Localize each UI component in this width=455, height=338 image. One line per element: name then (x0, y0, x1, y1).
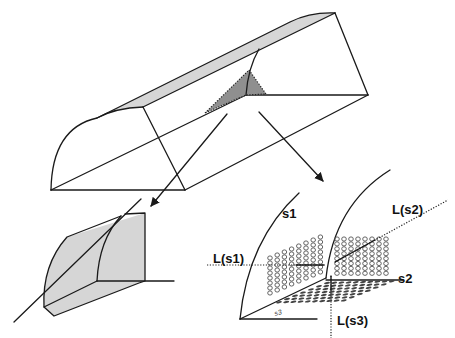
quadrature-point (304, 256, 309, 260)
quadrature-point (304, 266, 309, 270)
quadrature-point (359, 283, 365, 286)
quadrature-point (289, 247, 294, 251)
quadrature-point (381, 283, 387, 286)
quadrature-point (311, 253, 316, 257)
quadrature-point (384, 261, 389, 265)
quadrature-point (300, 291, 306, 294)
highlighted-element (205, 70, 266, 113)
quadrature-point (318, 245, 323, 249)
quadrature-point (289, 257, 294, 261)
quadrature-point (305, 297, 311, 300)
quadrature-point (304, 276, 309, 280)
quadrature-point (349, 247, 354, 251)
quadrature-point (365, 286, 371, 289)
quadrature-point (349, 271, 354, 275)
quadrature-point (268, 281, 273, 285)
quadrature-point (349, 261, 354, 265)
quadrature-point (342, 242, 347, 246)
quadrature-point (298, 297, 304, 300)
quadrature-point (342, 252, 347, 256)
quadrature-point (313, 297, 319, 300)
quadrature-point (331, 281, 337, 284)
quadrature-point (349, 237, 354, 241)
top-curved-surface (97, 13, 335, 118)
quadrature-point (356, 237, 361, 241)
quadrature-point (342, 271, 347, 275)
quadrature-point (384, 266, 389, 270)
quadrature-point (282, 260, 287, 264)
quadrature-point (363, 261, 368, 265)
quadrature-point (377, 266, 382, 270)
quadrature-point (268, 291, 273, 295)
quadrature-point (291, 297, 297, 300)
quadrature-point (297, 274, 302, 278)
quadrature-point (312, 300, 318, 303)
quadrature-point (305, 300, 311, 303)
quadrature-point (351, 287, 357, 290)
quadrature-point (289, 252, 294, 256)
quadrature-point (304, 241, 309, 245)
main-prism (51, 13, 368, 190)
quadrature-point (304, 271, 309, 275)
quadrature-point (366, 283, 372, 286)
quadrature-point (356, 271, 361, 275)
quadrature-point (313, 294, 319, 297)
quadrature-point (318, 260, 323, 264)
quadrature-point (344, 287, 350, 290)
quadrature-point (308, 288, 314, 291)
quadrature-point (275, 273, 280, 277)
L-s2-solid-segment (335, 240, 375, 262)
front-face-arc (51, 107, 143, 190)
quadrature-point (341, 296, 347, 299)
quadrature-point (323, 284, 329, 287)
quadrature-point (282, 250, 287, 254)
quadrature-point (299, 294, 305, 297)
quadrature-point (377, 261, 382, 265)
quadrature-point (316, 285, 322, 288)
quadrature-point (384, 257, 389, 261)
quadrature-point (342, 237, 347, 241)
quadrature-point (275, 283, 280, 287)
quadrature-point (384, 252, 389, 256)
quadrature-point (377, 271, 382, 275)
quadrature-point (335, 266, 340, 270)
quadrature-point (338, 281, 344, 284)
quadrature-point (268, 256, 273, 260)
quadrature-point (297, 244, 302, 248)
quadrature-point (297, 269, 302, 273)
quadrature-point (342, 293, 348, 296)
quadrature-point (304, 246, 309, 250)
quadrature-point (335, 252, 340, 256)
quadrature-point (321, 293, 327, 296)
quadrature-point (363, 247, 368, 251)
quadrature-point (356, 257, 361, 261)
quadrature-point (358, 286, 364, 289)
quadrature-point (363, 237, 368, 241)
quadrature-point (292, 294, 298, 297)
quadrature-point (365, 289, 371, 292)
quadrature-point (349, 266, 354, 270)
quadrature-point (311, 273, 316, 277)
quadrature-point (349, 242, 354, 246)
quadrature-point (353, 281, 359, 284)
label-L-s1: L(s1) (213, 251, 244, 266)
quadrature-point (337, 284, 343, 287)
quadrature-point (384, 247, 389, 251)
quadrature-point (370, 266, 375, 270)
quadrature-point (370, 252, 375, 256)
quadrature-point (315, 288, 321, 291)
quadrature-point (370, 271, 375, 275)
quadrature-point (356, 261, 361, 265)
quadrature-point (282, 280, 287, 284)
quadrature-point (356, 252, 361, 256)
quadrature-point (363, 271, 368, 275)
quadrature-point (304, 251, 309, 255)
quadrature-point (314, 291, 320, 294)
quadrature-point (319, 299, 325, 302)
quadrature-point (352, 284, 358, 287)
quadrature-point (311, 258, 316, 262)
quadrature-point (318, 270, 323, 274)
quadrature-point (275, 253, 280, 257)
quadrature-point (324, 281, 330, 284)
quadrature-point (311, 248, 316, 252)
